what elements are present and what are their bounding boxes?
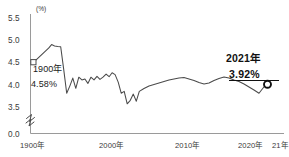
end-annotation-year: 2021年 bbox=[226, 52, 261, 64]
start-annotation-year: 1900年 bbox=[33, 63, 63, 74]
x-tick-label-2000: 2000年 bbox=[99, 140, 124, 150]
x-tick-label-1900: 1900年 bbox=[20, 140, 45, 150]
y-axis-unit-label: (%) bbox=[36, 5, 46, 13]
x-tick-label-2010: 2010年 bbox=[175, 140, 200, 150]
y-tick-label-5-5: 5.5 bbox=[8, 14, 20, 23]
line-chart: (%) 5.5 5.0 4.5 4.0 3.5 0.0 1900年 4.58% … bbox=[0, 0, 289, 157]
chart-svg: (%) 5.5 5.0 4.5 4.0 3.5 0.0 1900年 4.58% … bbox=[0, 0, 289, 157]
y-tick-label-4-0: 4.0 bbox=[8, 81, 20, 90]
start-annotation-value: 4.58% bbox=[31, 79, 57, 89]
end-point-marker bbox=[264, 81, 271, 88]
end-annotation-value: 3.92% bbox=[229, 68, 260, 80]
x-tick-label-21: 21年 bbox=[272, 140, 289, 150]
x-tick-label-2020: 2020年 bbox=[238, 140, 263, 150]
y-tick-label-0-0: 0.0 bbox=[8, 130, 20, 139]
y-tick-label-3-5: 3.5 bbox=[8, 103, 20, 112]
y-tick-label-4-5: 4.5 bbox=[8, 58, 20, 67]
y-tick-label-5-0: 5.0 bbox=[8, 36, 20, 45]
